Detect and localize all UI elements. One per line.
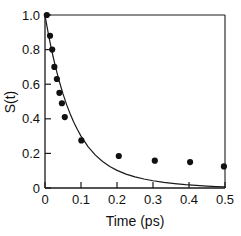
x-tick-label-0p5: 0.5 xyxy=(216,192,234,207)
x-tick-label-0p4: 0.4 xyxy=(180,192,198,207)
data-point xyxy=(44,12,50,18)
data-point xyxy=(47,33,53,39)
data-point-group xyxy=(44,12,227,170)
data-point xyxy=(116,153,122,159)
x-axis-title: Time (ps) xyxy=(106,213,165,229)
plot-frame xyxy=(45,15,225,188)
data-point xyxy=(49,47,55,53)
y-tick-label-1p0: 1.0 xyxy=(22,8,40,23)
y-axis-title: S(t) xyxy=(2,91,18,114)
data-point xyxy=(62,114,68,120)
data-point xyxy=(56,90,62,96)
x-axis-tick-labels: 0 0.1 0.2 0.3 0.4 0.5 xyxy=(41,192,234,207)
x-tick-label-0p1: 0.1 xyxy=(72,192,90,207)
data-point xyxy=(187,159,193,165)
x-tick-label-0p2: 0.2 xyxy=(108,192,126,207)
data-point xyxy=(221,163,227,169)
y-tick-label-0p2: 0.2 xyxy=(22,146,40,161)
data-point xyxy=(78,137,84,143)
scatter-plot: 0 0.2 0.4 0.6 0.8 1.0 0 0.1 0.2 0.3 0.4 … xyxy=(0,0,241,236)
data-point xyxy=(59,100,65,106)
y-tick-label-0: 0 xyxy=(33,181,40,196)
data-point xyxy=(54,76,60,82)
data-point xyxy=(51,64,57,70)
x-tick-label-0p3: 0.3 xyxy=(144,192,162,207)
y-tick-label-0p6: 0.6 xyxy=(22,77,40,92)
y-tick-label-0p4: 0.4 xyxy=(22,111,40,126)
model-curve xyxy=(45,15,225,187)
y-axis-tick-labels: 0 0.2 0.4 0.6 0.8 1.0 xyxy=(22,8,40,196)
data-point xyxy=(152,158,158,164)
x-tick-label-0: 0 xyxy=(41,192,48,207)
y-tick-label-0p8: 0.8 xyxy=(22,42,40,57)
figure-container: 0 0.2 0.4 0.6 0.8 1.0 0 0.1 0.2 0.3 0.4 … xyxy=(0,0,241,236)
